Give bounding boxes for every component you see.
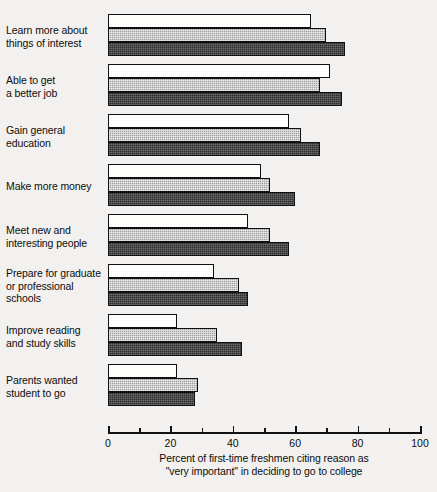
bar-series-2 xyxy=(108,28,326,42)
bar-series-2 xyxy=(108,328,217,342)
x-axis-minor-tick xyxy=(326,428,328,433)
x-axis xyxy=(108,432,420,434)
category-label: Make more money xyxy=(6,180,106,193)
x-axis-caption: Percent of first-time freshmen citing re… xyxy=(108,452,420,478)
bar-series-1 xyxy=(108,114,289,128)
x-axis-major-tick xyxy=(233,426,235,434)
category-label: Learn more aboutthings of interest xyxy=(6,24,106,49)
bar-series-3 xyxy=(108,392,195,406)
bar-series-1 xyxy=(108,264,214,278)
category-label: Improve readingand study skills xyxy=(6,324,106,349)
bar-series-2 xyxy=(108,128,301,142)
bar-series-2 xyxy=(108,278,239,292)
x-axis-tick-label: 40 xyxy=(227,437,239,449)
x-axis-minor-tick xyxy=(264,428,266,433)
bar-series-3 xyxy=(108,292,248,306)
plot-area: Learn more aboutthings of interestAble t… xyxy=(0,0,437,430)
x-axis-major-tick xyxy=(108,426,110,434)
x-axis-major-tick xyxy=(295,426,297,434)
bar-group: Make more money xyxy=(0,164,437,208)
x-axis-caption-line: "very important" in deciding to go to co… xyxy=(108,465,420,478)
bar-group: Gain generaleducation xyxy=(0,114,437,158)
x-axis-minor-tick xyxy=(389,428,391,433)
bar-group: Meet new andinteresting people xyxy=(0,214,437,258)
bar-series-3 xyxy=(108,242,289,256)
bar-series-1 xyxy=(108,364,177,378)
bar-series-3 xyxy=(108,342,242,356)
bar-series-3 xyxy=(108,92,342,106)
x-axis-minor-tick xyxy=(139,428,141,433)
bar-group: Able to geta better job xyxy=(0,64,437,108)
category-label: Meet new andinteresting people xyxy=(6,224,106,249)
bar-series-2 xyxy=(108,78,320,92)
x-axis-caption-line: Percent of first-time freshmen citing re… xyxy=(108,452,420,465)
x-axis-tick-label: 20 xyxy=(165,437,177,449)
bar-series-1 xyxy=(108,14,311,28)
bar-series-3 xyxy=(108,192,295,206)
horizontal-grouped-bar-chart: Learn more aboutthings of interestAble t… xyxy=(0,0,437,492)
bar-series-1 xyxy=(108,314,177,328)
x-axis-major-tick xyxy=(420,426,422,434)
bar-series-1 xyxy=(108,214,248,228)
category-label: Gain generaleducation xyxy=(6,124,106,149)
x-axis-minor-tick xyxy=(202,428,204,433)
x-axis-tick-label: 60 xyxy=(289,437,301,449)
x-axis-tick-label: 0 xyxy=(105,437,111,449)
bar-group: Prepare for graduateor professionalschoo… xyxy=(0,264,437,308)
bar-series-3 xyxy=(108,142,320,156)
category-label: Prepare for graduateor professionalschoo… xyxy=(6,267,106,305)
category-label: Able to geta better job xyxy=(6,74,106,99)
x-axis-tick-label: 100 xyxy=(411,437,429,449)
bar-group: Parents wantedstudent to go xyxy=(0,364,437,408)
bar-group: Learn more aboutthings of interest xyxy=(0,14,437,58)
bar-series-2 xyxy=(108,228,270,242)
x-axis-tick-label: 80 xyxy=(352,437,364,449)
bar-series-2 xyxy=(108,178,270,192)
bar-series-2 xyxy=(108,378,198,392)
category-label: Parents wantedstudent to go xyxy=(6,374,106,399)
bar-group: Improve readingand study skills xyxy=(0,314,437,358)
bar-series-1 xyxy=(108,164,261,178)
bar-series-3 xyxy=(108,42,345,56)
x-axis-major-tick xyxy=(358,426,360,434)
x-axis-major-tick xyxy=(170,426,172,434)
bar-series-1 xyxy=(108,64,330,78)
